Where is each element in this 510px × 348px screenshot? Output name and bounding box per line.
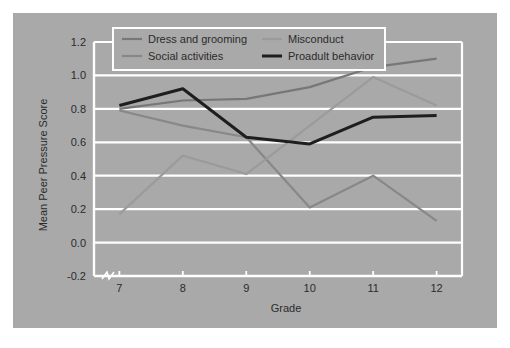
series-line-social-activities [119,111,436,221]
x-tick-label: 11 [367,282,378,294]
legend-label: Dress and grooming [148,33,247,45]
legend-label: Social activities [148,50,224,62]
y-tick-label: 0.0 [71,237,86,249]
x-tick-label: 7 [116,282,122,294]
data-series-group [119,59,436,221]
series-line-misconduct [119,77,436,214]
x-tick-label: 9 [243,282,249,294]
y-axis-title: Mean Peer Pressure Score [37,99,49,232]
y-tick-label: 0.2 [71,203,86,215]
line-chart: 1.21.00.80.60.40.20.0-0.2 789101112 Grad… [0,0,510,348]
x-axis-tick-labels: 789101112 [116,282,442,294]
x-tick-label: 10 [304,282,316,294]
axis-break-mark [102,272,114,279]
gridlines [94,42,462,243]
legend-label: Misconduct [288,33,344,45]
y-axis-tick-labels: 1.21.00.80.60.40.20.0-0.2 [67,36,86,282]
y-tick-label: 0.8 [71,103,86,115]
legend-label: Proadult behavior [288,50,375,62]
x-tick-label: 8 [180,282,186,294]
x-axis-title: Grade [271,302,302,314]
y-tick-label: 1.2 [71,36,86,48]
y-tick-label: -0.2 [67,270,86,282]
chart-legend: Dress and groomingMisconductSocial activ… [113,28,385,70]
y-tick-label: 1.0 [71,69,86,81]
y-tick-label: 0.4 [71,170,86,182]
y-tick-label: 0.6 [71,136,86,148]
chart-figure: 1.21.00.80.60.40.20.0-0.2 789101112 Grad… [0,0,510,348]
series-line-proadult-behavior [119,89,436,144]
x-tick-label: 12 [430,282,442,294]
